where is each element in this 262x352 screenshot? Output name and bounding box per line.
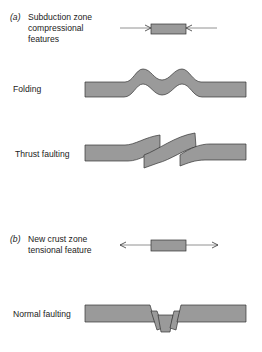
tectonic-diagram (0, 0, 262, 352)
tension-arrows-icon (120, 240, 218, 251)
thrust-fault-blocks-icon (85, 133, 246, 168)
compression-arrows-icon (120, 24, 217, 34)
normal-fault-blocks-icon (85, 305, 246, 332)
folding-layer-icon (85, 69, 246, 97)
